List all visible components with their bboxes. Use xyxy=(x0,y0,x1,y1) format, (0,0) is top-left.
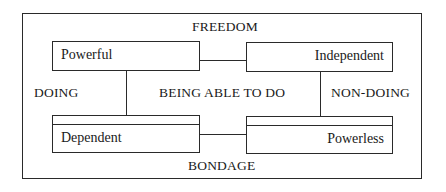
connector-dependent-powerless xyxy=(199,134,246,135)
connector-powerful-independent xyxy=(199,60,247,61)
connector-powerful-dependent xyxy=(126,70,127,115)
box-dependent: Dependent xyxy=(52,115,200,153)
double-rule xyxy=(247,125,392,126)
caption-being-able-to-do: BEING ABLE TO DO xyxy=(159,85,285,101)
double-rule xyxy=(53,124,199,125)
caption-freedom: FREEDOM xyxy=(192,19,258,35)
box-powerless: Powerless xyxy=(246,116,393,154)
box-label-dependent: Dependent xyxy=(61,130,122,146)
box-label-powerless: Powerless xyxy=(327,131,384,147)
connector-independent-powerless xyxy=(320,71,321,116)
box-powerful: Powerful xyxy=(52,41,200,71)
box-label-independent: Independent xyxy=(315,48,384,64)
box-label-powerful: Powerful xyxy=(61,47,112,63)
caption-bondage: BONDAGE xyxy=(188,158,255,174)
caption-non-doing: NON-DOING xyxy=(331,85,410,101)
box-independent: Independent xyxy=(246,42,393,72)
caption-doing: DOING xyxy=(34,85,79,101)
